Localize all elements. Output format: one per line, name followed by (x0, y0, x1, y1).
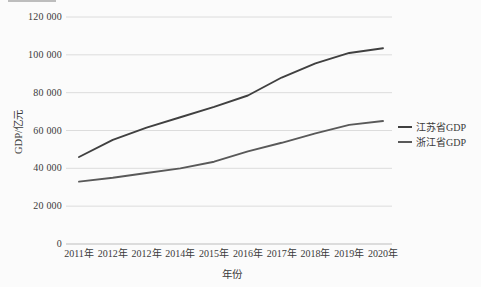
x-tick-label: 2020年 (361, 248, 405, 260)
y-tick-label: 0 (0, 238, 62, 250)
y-tick-label: 100 000 (0, 49, 62, 61)
y-axis-title: GDP/亿元 (10, 72, 24, 192)
legend-line-swatch (398, 141, 412, 143)
legend-item: 浙江省GDP (398, 135, 466, 148)
x-axis-title: 年份 (172, 266, 292, 281)
gridlines (66, 17, 392, 244)
y-tick-label: 120 000 (0, 11, 62, 23)
legend: 江苏省GDP浙江省GDP (398, 120, 466, 148)
series-line-0 (79, 48, 383, 157)
series-lines (79, 48, 383, 181)
legend-item: 江苏省GDP (398, 120, 466, 133)
legend-line-swatch (398, 126, 412, 128)
legend-label: 江苏省GDP (416, 119, 466, 134)
gdp-line-chart: 020 00040 00060 00080 000100 000120 000 … (0, 0, 481, 287)
y-tick-label: 20 000 (0, 200, 62, 212)
legend-label: 浙江省GDP (416, 134, 466, 149)
